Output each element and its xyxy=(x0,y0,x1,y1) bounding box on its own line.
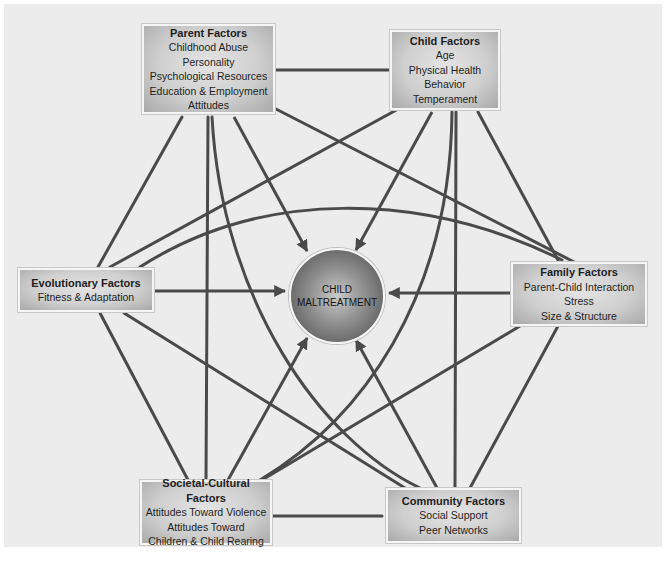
arrow-parent-center xyxy=(234,117,307,251)
node-item: Stress xyxy=(564,294,594,309)
node-item: Peer Networks xyxy=(419,523,488,538)
arrow-child-center xyxy=(356,112,432,250)
node-item: Fitness & Adaptation xyxy=(38,290,134,305)
edge-parent-family xyxy=(274,108,580,265)
edge-child-community xyxy=(455,112,456,488)
center-label-line2: MALTREATMENT xyxy=(297,296,377,309)
node-community-factors: Community Factors Social Support Peer Ne… xyxy=(386,488,521,543)
node-item: Age xyxy=(436,48,455,63)
edge-child-family xyxy=(478,112,558,260)
node-item: Psychological Resources xyxy=(150,69,267,84)
center-label-line1: CHILD xyxy=(322,283,352,296)
node-parent-factors: Parent Factors Childhood Abuse Personali… xyxy=(142,24,275,114)
node-item: Attitudes Toward Violence xyxy=(146,505,266,520)
node-title: Community Factors xyxy=(402,494,505,509)
node-title: Parent Factors xyxy=(170,26,247,41)
node-title: Child Factors xyxy=(410,34,480,49)
node-item: Behavior xyxy=(424,77,465,92)
node-item: Education & Employment xyxy=(150,84,268,99)
node-item: Parent-Child Interaction xyxy=(524,280,634,295)
node-item: Childhood Abuse xyxy=(169,40,248,55)
edge-parent-societal xyxy=(206,117,208,480)
node-item: Attitudes xyxy=(188,98,229,113)
center-child-maltreatment: CHILD MALTREATMENT xyxy=(289,248,385,344)
node-title: Family Factors xyxy=(540,265,618,280)
node-item: Children & Child Rearing xyxy=(148,534,264,549)
node-item: Attitudes Toward xyxy=(167,520,244,535)
edge-family-community xyxy=(470,326,558,488)
node-title: Evolutionary Factors xyxy=(31,276,140,291)
edge-parent-evolutionary xyxy=(98,117,182,267)
node-item: Size & Structure xyxy=(541,309,617,324)
edge-evolutionary-community xyxy=(124,313,405,488)
node-child-factors: Child Factors Age Physical Health Behavi… xyxy=(390,30,500,110)
node-item: Physical Health xyxy=(409,63,481,78)
edge-child-evolutionary xyxy=(110,108,400,267)
node-societal-cultural-factors: Societal-Cultural Factors Attitudes Towa… xyxy=(140,480,272,545)
edge-evolutionary-societal xyxy=(100,313,188,480)
node-item: Personality xyxy=(183,55,235,70)
node-evolutionary-factors: Evolutionary Factors Fitness & Adaptatio… xyxy=(18,268,154,312)
node-item: Temperament xyxy=(413,92,477,107)
node-item: Social Support xyxy=(419,508,487,523)
node-family-factors: Family Factors Parent-Child Interaction … xyxy=(511,262,647,326)
node-title: Societal-Cultural Factors xyxy=(142,476,270,505)
